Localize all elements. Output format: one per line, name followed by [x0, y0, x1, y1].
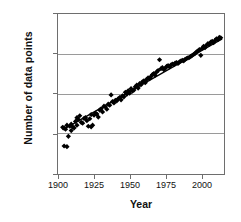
y-axis-title: Number of data points — [22, 3, 34, 173]
x-tick-mark-1950 — [130, 175, 131, 179]
y-tick-mark-1e3 — [53, 134, 57, 135]
gridline-1e4 — [58, 94, 224, 95]
y-tick-mark-1e4 — [53, 93, 57, 94]
x-tick-mark-2000 — [202, 175, 203, 179]
x-tick-label-1975: 1975 — [146, 180, 186, 190]
y-tick-mark-1e6 — [53, 13, 57, 14]
x-tick-label-2000: 2000 — [182, 180, 222, 190]
y-tick-mark-1e5 — [53, 53, 57, 54]
y-tick-mark-1e2 — [53, 174, 57, 175]
gridline-1e3 — [58, 133, 224, 134]
x-tick-mark-1925 — [94, 175, 95, 179]
x-axis-title: Year — [57, 198, 225, 210]
gridline-1e5 — [58, 54, 224, 55]
figure-scatter-data-points-vs-year: Number of data points Year 106 105 104 1… — [0, 0, 241, 222]
x-tick-label-1950: 1950 — [110, 180, 150, 190]
x-tick-mark-1975 — [166, 175, 167, 179]
x-tick-label-1900: 1900 — [38, 180, 78, 190]
x-tick-label-1925: 1925 — [74, 180, 114, 190]
plot-area — [57, 13, 225, 175]
x-tick-mark-1900 — [58, 175, 59, 179]
